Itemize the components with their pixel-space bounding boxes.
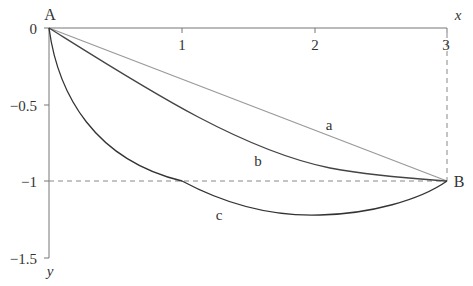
curve-a (49, 28, 447, 181)
brachistochrone-chart: 1 2 3 0 −0.5 −1 −1.5 x y A B a b c (0, 0, 473, 286)
x-tick-label-3: 3 (442, 37, 450, 53)
y-tick-label-15: −1.5 (10, 251, 37, 267)
point-a-label: A (44, 6, 56, 23)
y-axis-label: y (45, 263, 54, 279)
point-b-label: B (454, 173, 465, 190)
curve-a-label: a (326, 117, 333, 133)
curve-c (49, 28, 447, 215)
curve-b-label: b (254, 153, 262, 169)
x-tick-label-1: 1 (178, 37, 186, 53)
x-tick-label-2: 2 (311, 37, 319, 53)
y-tick-label-05: −0.5 (10, 98, 37, 114)
y-tick-label-0: 0 (30, 21, 38, 37)
x-axis-label: x (454, 7, 462, 23)
curve-c-label: c (216, 207, 223, 223)
y-tick-label-1: −1 (21, 174, 37, 190)
